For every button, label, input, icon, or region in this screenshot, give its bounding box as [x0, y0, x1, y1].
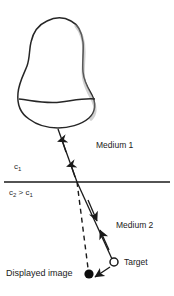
speed-c1-label: c1	[14, 163, 21, 171]
speed-inequality-label: c2 > c1	[9, 189, 33, 197]
inequality-operator: > c	[16, 188, 29, 197]
speed-c1-subscript: 1	[18, 166, 21, 172]
target-point	[110, 258, 118, 266]
target-label: Target	[124, 258, 148, 267]
displayed-image-point	[84, 269, 93, 278]
refraction-artifact-figure: Medium 1 c1 c2 > c1 Medium 2 Target Disp…	[0, 0, 174, 296]
refracted-ray-arrow-up	[100, 230, 109, 250]
ultrasound-transducer	[18, 18, 95, 128]
medium-1-label: Medium 1	[96, 141, 133, 150]
displacement-arrow	[95, 267, 110, 277]
speed-c2-subscript: 2	[13, 192, 16, 198]
diagram-canvas	[0, 0, 174, 296]
displayed-image-label: Displayed image	[6, 269, 73, 278]
incident-ray-arrow-lower	[71, 165, 75, 177]
incident-ray-arrow-upper	[62, 140, 66, 152]
speed-c1-subscript-b: 1	[29, 192, 32, 198]
medium-2-label: Medium 2	[116, 221, 153, 230]
